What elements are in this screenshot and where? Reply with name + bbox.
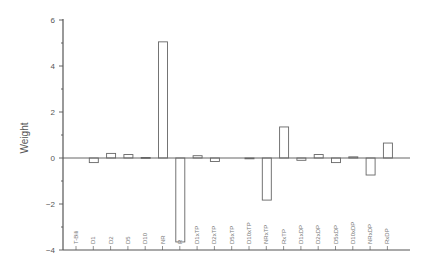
bar-d2xtp [210,158,219,161]
category-label: NRxDP [367,224,373,244]
category-labels: T-BiliD1D2D5D10NRRD1xTPD2xTPD5xTPD10xTPN… [73,222,390,250]
bar-nr [159,42,168,158]
category-label: D1xTP [194,226,200,244]
category-label: D10 [142,232,148,244]
bar-d5 [124,155,133,158]
y-tick-label: 4 [51,62,56,71]
category-label: D2xDP [315,225,321,244]
category-label: NRxTP [263,225,269,244]
category-label: D5 [125,236,131,244]
bar-chart: −4−20246 T-BiliD1D2D5D10NRRD1xTPD2xTPD5x… [0,0,431,273]
category-label: D5xDP [333,225,339,244]
category-label: D5xTP [229,226,235,244]
bar-nrxdp [366,158,375,175]
category-label: NR [160,235,166,244]
bar-d1 [89,158,98,163]
y-tick-label: −2 [46,200,56,209]
bars [89,42,392,242]
bar-d2 [107,153,116,158]
y-axis-title: Weight [19,122,30,153]
category-label: D1 [90,236,96,244]
bar-nrxtp [262,158,271,200]
category-label: RxDP [384,228,390,244]
category-label: R [177,239,183,244]
category-label: D2xTP [211,226,217,244]
y-tick-label: −4 [46,246,56,255]
y-tick-label: 6 [51,16,56,25]
category-label: D10xDP [350,222,356,244]
category-label: RxTP [281,229,287,244]
y-tick-label: 2 [51,108,56,117]
category-label: D2 [108,236,114,244]
bar-r [176,158,185,242]
bar-d2xdp [314,155,323,158]
y-tick-label: 0 [51,154,56,163]
category-label: D1xDP [298,225,304,244]
category-label: T-Bili [73,231,79,244]
category-label: D10xTP [246,222,252,244]
bar-rxdp [383,143,392,158]
bar-rxtp [280,127,289,158]
y-axis-ticks: −4−20246 [46,16,63,255]
bar-d5xdp [332,158,341,163]
